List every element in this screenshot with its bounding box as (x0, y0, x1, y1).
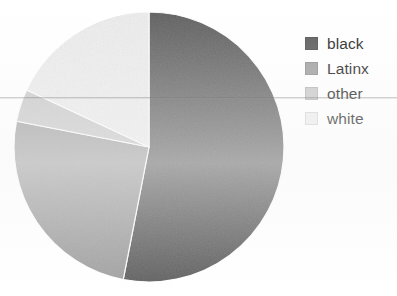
pie-svg (0, 0, 300, 296)
legend-label-white: white (327, 111, 364, 127)
legend-swatch-other (305, 87, 318, 100)
legend-label-black: black (327, 36, 364, 52)
chart-legend: black Latinx other white (305, 31, 397, 131)
legend-label-other: other (327, 86, 363, 102)
legend-swatch-white (305, 112, 318, 125)
pie-grain-overlay (14, 12, 284, 282)
legend-item-other[interactable]: other (305, 81, 397, 106)
legend-item-black[interactable]: black (305, 31, 397, 56)
pie-plot-area (0, 0, 300, 296)
legend-swatch-black (305, 37, 318, 50)
legend-label-latinx: Latinx (327, 61, 369, 77)
pie-chart-figure: black Latinx other white (0, 0, 397, 296)
legend-swatch-latinx (305, 62, 318, 75)
legend-item-white[interactable]: white (305, 106, 397, 131)
legend-item-latinx[interactable]: Latinx (305, 56, 397, 81)
